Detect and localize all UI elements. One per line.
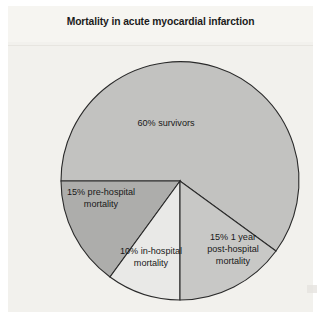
pie-label-survivors: 60% survivors: [110, 117, 222, 129]
figure-page: Mortality in acute myocardial infarction…: [0, 0, 321, 319]
scan-artifact: [307, 285, 317, 293]
pie-label-in-hospital: 10% in-hospital mortality: [103, 245, 199, 269]
pie-label-pre-hospital: 15% pre-hospital mortality: [45, 186, 157, 210]
pie-label-post-hospital: 15% 1 year post-hospital mortality: [187, 231, 279, 268]
